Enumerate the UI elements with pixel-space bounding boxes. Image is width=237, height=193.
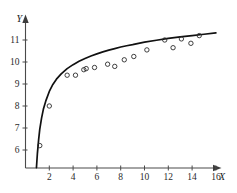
x-axis-label: X [218,171,226,182]
y-tick-label: 11 [10,35,19,45]
data-point-marker [132,54,136,58]
x-tick-label: 14 [187,172,197,182]
x-tick-label: 4 [71,172,76,182]
data-point-marker [113,64,117,68]
data-point-marker [189,41,193,45]
data-point-marker [73,73,77,77]
x-tick-label: 8 [118,172,123,182]
y-tick-label: 8 [15,101,20,111]
scatter-plot-svg: 67891011 246810121416 Y X [0,0,237,193]
data-point-marker [122,58,126,62]
y-tick-label: 9 [15,79,20,89]
x-tick-label: 10 [140,172,150,182]
chart-container: 67891011 246810121416 Y X [0,0,237,193]
data-point-marker [92,65,96,69]
fitted-curve [36,33,215,168]
y-axis-ticks: 67891011 [10,35,28,155]
y-tick-label: 10 [10,57,20,67]
data-point-marker [65,73,69,77]
axes-group [22,15,221,172]
x-tick-label: 2 [47,172,52,182]
data-point-marker [145,48,149,52]
data-point-marker [105,62,109,66]
y-axis-label: Y [17,13,24,24]
y-axis-arrow-icon [22,15,28,24]
x-tick-label: 6 [95,172,100,182]
data-point-markers [38,33,202,147]
data-point-marker [171,46,175,50]
y-tick-label: 6 [15,145,20,155]
y-tick-label: 7 [15,123,20,133]
x-tick-label: 12 [164,172,174,182]
data-point-marker [47,104,51,108]
